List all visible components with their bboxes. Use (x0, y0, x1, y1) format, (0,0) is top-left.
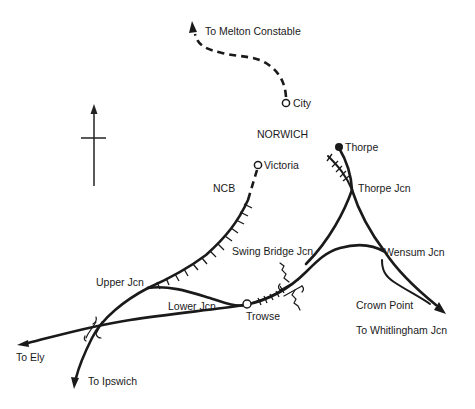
label-to-whitlingham-jcn: To Whitlingham Jcn (356, 324, 447, 336)
label-crown-point: Crown Point (356, 299, 413, 311)
map-title: NORWICH (257, 128, 308, 140)
norwich-railway-map: To Melton Constable City NORWICH Thorpe … (0, 0, 475, 409)
north-arrow-icon (81, 104, 106, 186)
label-thorpe-jcn: Thorpe Jcn (358, 182, 411, 194)
label-swing-bridge-jcn: Swing Bridge Jcn (232, 245, 313, 257)
label-ncb: NCB (213, 182, 235, 194)
label-to-melton-constable: To Melton Constable (205, 25, 301, 37)
label-thorpe: Thorpe (345, 141, 378, 153)
thorpe-lines (306, 148, 436, 305)
arrow-icon (189, 21, 197, 33)
line-victoria-ncb (148, 170, 257, 289)
label-upper-jcn: Upper Jcn (96, 276, 144, 288)
station-trowse-marker[interactable] (243, 300, 251, 308)
arrow-icon (71, 377, 79, 389)
station-thorpe-marker[interactable] (335, 143, 343, 151)
station-victoria-marker[interactable] (254, 161, 261, 168)
station-city-marker[interactable] (282, 99, 289, 106)
arrow-icon (17, 340, 29, 347)
label-lower-jcn: Lower Jcn (168, 300, 216, 312)
label-to-ipswich: To Ipswich (88, 375, 137, 387)
label-victoria: Victoria (264, 159, 299, 171)
label-to-ely: To Ely (16, 351, 45, 363)
label-city: City (293, 97, 312, 109)
label-trowse: Trowse (246, 310, 280, 322)
label-wensum-jcn: Wensum Jcn (384, 246, 445, 258)
swing-bridge-symbol (279, 263, 304, 310)
line-to-ipswich (76, 288, 148, 378)
